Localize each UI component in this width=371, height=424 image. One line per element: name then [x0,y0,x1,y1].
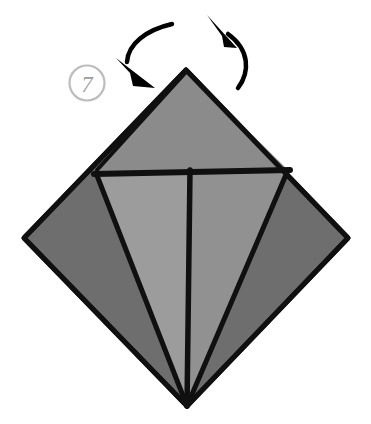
upper-triangle-panel [96,70,288,173]
turn-over-arrow-left-shaft [127,24,172,62]
turn-over-arrow-right-head [207,15,237,48]
origami-diagram: 7 [0,0,371,424]
turn-over-arrow-left-head [116,58,155,88]
step-number-badge: 7 [70,66,105,101]
origami-figure: 7 [0,0,371,424]
vertical-fold-line [187,170,190,406]
paper-model [24,70,348,406]
step-number-label: 7 [81,72,94,97]
